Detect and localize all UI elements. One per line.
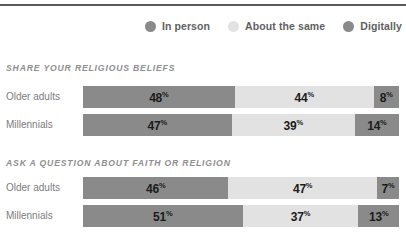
percent-sign: %	[382, 209, 388, 218]
bar-segment-in-person: 51%	[83, 205, 243, 227]
section-title-ask-question: ASK A QUESTION ABOUT FAITH OR RELIGION	[6, 158, 231, 168]
stacked-bar: 48%44%8%	[83, 86, 399, 108]
chart-legend: In person About the same Digitally	[0, 17, 406, 35]
bar-segment-digitally: 13%	[358, 205, 399, 227]
legend-label-digitally: Digitally	[360, 20, 402, 32]
chart-row: Millennials51%37%13%	[0, 205, 406, 227]
bar-segment-about-the-same: 37%	[243, 205, 359, 227]
chart-row-label: Older adults	[6, 86, 60, 108]
section-title-share-beliefs: SHARE YOUR RELIGIOUS BELIEFS	[6, 63, 175, 73]
bar-segment-in-person: 46%	[83, 177, 228, 199]
bar-segment-value: 51%	[153, 210, 172, 223]
legend-dot-icon	[228, 21, 239, 32]
chart-row: Older adults46%47%7%	[0, 177, 406, 199]
legend-item-in-person: In person	[145, 20, 210, 32]
legend-label-about-the-same: About the same	[245, 20, 325, 32]
bar-segment-value: 47%	[148, 119, 167, 132]
bar-segment-value: 37%	[291, 210, 310, 223]
chart-row-label: Millennials	[6, 205, 53, 227]
percent-sign: %	[306, 181, 312, 190]
percent-sign: %	[166, 209, 172, 218]
bar-segment-digitally: 8%	[374, 86, 399, 108]
legend-item-digitally: Digitally	[343, 20, 402, 32]
bar-segment-value: 48%	[149, 91, 168, 104]
bar-segment-in-person: 48%	[83, 86, 235, 108]
bar-segment-value: 7%	[381, 182, 394, 195]
chart-row-label: Millennials	[6, 114, 53, 136]
bar-segment-value: 47%	[293, 182, 312, 195]
top-divider	[0, 4, 406, 6]
stacked-bar: 51%37%13%	[83, 205, 399, 227]
percent-sign: %	[386, 90, 392, 99]
bar-segment-value: 44%	[294, 91, 313, 104]
bar-segment-about-the-same: 44%	[235, 86, 374, 108]
percent-sign: %	[380, 118, 386, 127]
percent-sign: %	[159, 181, 165, 190]
bar-segment-about-the-same: 47%	[228, 177, 377, 199]
legend-dot-icon	[145, 21, 156, 32]
percent-sign: %	[388, 181, 394, 190]
bar-segment-in-person: 47%	[83, 114, 232, 136]
chart-panel-share-beliefs: Older adults48%44%8%Millennials47%39%14%	[0, 86, 406, 142]
chart-row-label: Older adults	[6, 177, 60, 199]
chart-row: Older adults48%44%8%	[0, 86, 406, 108]
chart-row: Millennials47%39%14%	[0, 114, 406, 136]
percent-sign: %	[161, 118, 167, 127]
percent-sign: %	[307, 90, 313, 99]
percent-sign: %	[304, 209, 310, 218]
legend-label-in-person: In person	[162, 20, 210, 32]
bar-segment-value: 13%	[369, 210, 388, 223]
chart-panel-ask-question: Older adults46%47%7%Millennials51%37%13%	[0, 177, 406, 233]
bar-segment-value: 8%	[380, 91, 393, 104]
bar-segment-digitally: 14%	[355, 114, 399, 136]
bar-segment-value: 46%	[146, 182, 165, 195]
stacked-bar: 47%39%14%	[83, 114, 399, 136]
legend-item-about-the-same: About the same	[228, 20, 325, 32]
bar-segment-about-the-same: 39%	[232, 114, 355, 136]
bar-segment-value: 39%	[283, 119, 302, 132]
percent-sign: %	[162, 90, 168, 99]
bar-segment-digitally: 7%	[377, 177, 399, 199]
legend-dot-icon	[343, 21, 354, 32]
stacked-bar: 46%47%7%	[83, 177, 399, 199]
percent-sign: %	[296, 118, 302, 127]
bar-segment-value: 14%	[367, 119, 386, 132]
